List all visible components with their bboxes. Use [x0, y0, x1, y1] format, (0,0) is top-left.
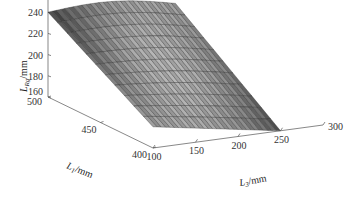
surface-mesh	[48, 1, 281, 131]
x-tick-label: 300	[328, 121, 343, 132]
y-tick-mark	[101, 122, 104, 123]
x-tick-mark	[323, 122, 325, 125]
x-tick-label: 250	[274, 134, 289, 145]
z-tick-label: 240	[28, 7, 43, 18]
y-axis-title: L1/mm	[64, 159, 95, 182]
z-tick-label: 220	[28, 28, 43, 39]
y-tick-label: 400	[132, 149, 147, 160]
y-tick-label: 450	[82, 124, 97, 135]
x-tick-label: 150	[189, 145, 204, 156]
x-axis-title: L3/mm	[237, 172, 267, 190]
z-tick-label: 160	[28, 86, 43, 97]
surface-chart: 1001502002503004004505001601802002202402…	[0, 0, 344, 205]
z-tick-mark	[48, 97, 51, 98]
z-tick-mark	[48, 33, 51, 34]
x-tick-label: 100	[147, 151, 162, 162]
z-tick-mark	[48, 76, 51, 77]
z-tick-label: 200	[28, 50, 43, 61]
x-tick-label: 200	[232, 140, 247, 151]
y-tick-label: 500	[27, 96, 42, 107]
z-tick-mark	[48, 55, 51, 56]
